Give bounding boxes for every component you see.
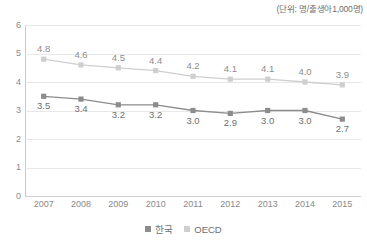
data-point-korea-2013: [265, 108, 270, 113]
value-label-korea-2010: 3.2: [139, 110, 173, 120]
legend-item-korea[interactable]: 한국: [145, 222, 173, 236]
data-point-korea-2009: [116, 102, 121, 107]
value-label-korea-2014: 3.0: [288, 116, 322, 126]
data-point-oecd-2011: [190, 74, 195, 79]
value-label-korea-2011: 3.0: [176, 116, 210, 126]
value-label-oecd-2009: 4.5: [101, 53, 135, 63]
value-label-oecd-2010: 4.4: [139, 56, 173, 66]
value-label-korea-2015: 2.7: [325, 124, 359, 134]
value-label-oecd-2008: 4.6: [64, 50, 98, 60]
data-point-korea-2011: [190, 108, 195, 113]
data-point-oecd-2010: [153, 68, 158, 73]
value-label-korea-2007: 3.5: [27, 101, 61, 111]
value-label-korea-2008: 3.4: [64, 104, 98, 114]
data-point-oecd-2007: [41, 57, 46, 62]
value-label-oecd-2012: 4.1: [213, 64, 247, 74]
value-label-oecd-2011: 4.2: [176, 61, 210, 71]
value-label-oecd-2015: 3.9: [325, 70, 359, 80]
infant-mortality-line-chart: (단위: 명/출생아1,000명) 0123456 20072008200920…: [0, 0, 367, 241]
legend-swatch-icon: [184, 226, 190, 232]
value-label-oecd-2013: 4.1: [251, 64, 285, 74]
data-point-oecd-2012: [228, 77, 233, 82]
data-point-oecd-2014: [302, 79, 307, 84]
chart-legend: 한국OECD: [0, 222, 367, 236]
value-label-oecd-2014: 4.0: [288, 67, 322, 77]
legend-label: 한국: [155, 222, 173, 236]
data-point-korea-2007: [41, 94, 46, 99]
data-point-korea-2012: [228, 111, 233, 116]
data-point-oecd-2015: [340, 82, 345, 87]
data-point-oecd-2009: [116, 65, 121, 70]
value-label-korea-2012: 2.9: [213, 118, 247, 128]
data-point-korea-2014: [302, 108, 307, 113]
data-point-oecd-2013: [265, 77, 270, 82]
legend-item-oecd[interactable]: OECD: [184, 224, 221, 235]
value-label-korea-2009: 3.2: [101, 110, 135, 120]
legend-swatch-icon: [145, 226, 151, 232]
data-point-korea-2010: [153, 102, 158, 107]
legend-label: OECD: [194, 224, 221, 235]
data-point-oecd-2008: [78, 62, 83, 67]
data-point-korea-2008: [78, 97, 83, 102]
value-label-oecd-2007: 4.8: [27, 44, 61, 54]
data-point-korea-2015: [340, 117, 345, 122]
value-label-korea-2013: 3.0: [251, 116, 285, 126]
